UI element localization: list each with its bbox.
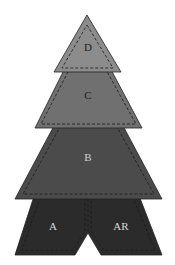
piece-b: B [15,122,162,199]
piece-d-label: D [84,41,92,53]
piece-a-ar-shape [15,193,162,255]
piece-c-label: C [84,89,91,101]
piece-a-label: A [49,220,57,232]
piece-b-label: B [84,151,91,163]
piece-c: C [35,64,142,128]
piece-a-ar: A AR [15,193,162,255]
piece-d: D [54,15,121,72]
piece-ar-label: AR [113,220,129,232]
tree-pattern-diagram: A AR B C D [0,0,175,265]
